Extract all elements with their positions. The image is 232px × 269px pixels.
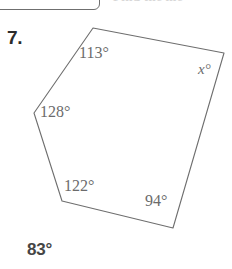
polygon-figure bbox=[0, 0, 232, 269]
angle-label-top: 113° bbox=[79, 45, 109, 61]
polygon-shape bbox=[34, 28, 224, 228]
answer-value: 83° bbox=[27, 240, 52, 260]
angle-label-unknown-x: x° bbox=[198, 62, 211, 77]
angle-label-bottom-left: 122° bbox=[64, 178, 94, 194]
angle-label-left: 128° bbox=[40, 104, 70, 120]
angle-label-bottom-right: 94° bbox=[145, 193, 167, 209]
